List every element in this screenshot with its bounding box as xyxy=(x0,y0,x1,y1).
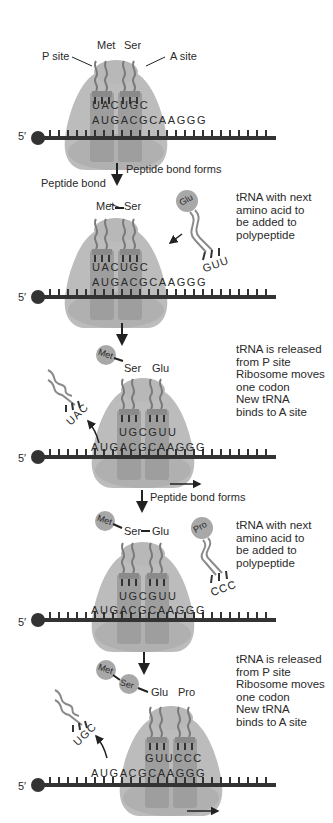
panel-4 xyxy=(31,490,276,652)
anticodons: GUUCCC xyxy=(145,752,203,764)
amino-acid-ser: Ser xyxy=(124,362,141,374)
amino-acid-pro: Pro xyxy=(178,686,195,698)
step-note: tRNA with next amino acid to be added to… xyxy=(236,191,311,241)
peptide-bond-label: Peptide bond xyxy=(41,177,106,189)
amino-acid-ser: Ser xyxy=(124,39,141,51)
mrna-sequence: AUGACGCAAGGG xyxy=(91,604,206,616)
mrna-sequence: AUGACGCAAGGG xyxy=(92,114,207,126)
step-note: tRNA is released from P site Ribosome mo… xyxy=(236,653,325,728)
step-label: Peptide bond forms xyxy=(150,491,245,503)
anticodons: UACUGC xyxy=(92,261,149,273)
p-site-label: P site xyxy=(42,50,69,62)
mrna-sequence: AUGACGCAAGGG xyxy=(92,276,207,288)
five-prime-label: 5′ xyxy=(18,130,26,142)
five-prime-label: 5′ xyxy=(18,780,26,792)
anticodons: UACUGC xyxy=(92,99,149,111)
step-note: tRNA with next amino acid to be added to… xyxy=(236,519,311,569)
amino-acid-met: Met xyxy=(96,200,114,212)
amino-acid-ser: Ser xyxy=(124,200,141,212)
five-prime-label: 5′ xyxy=(18,616,26,628)
mrna-sequence: AUGACGCAAGGG xyxy=(91,767,206,779)
amino-acid-glu: Glu xyxy=(152,362,169,374)
mrna-sequence: AUGACGCAAGGG xyxy=(91,441,206,453)
amino-acid-met: Met xyxy=(97,39,115,51)
amino-acid-ser: Ser xyxy=(124,525,141,537)
step-note: tRNA is released from P site Ribosome mo… xyxy=(236,343,325,418)
step-label: Peptide bond forms xyxy=(126,163,221,175)
anticodons: UGCGUU xyxy=(119,426,178,438)
anticodons: UGCGUU xyxy=(119,590,178,602)
amino-acid-glu: Glu xyxy=(151,686,168,698)
a-site-label: A site xyxy=(170,50,197,62)
amino-acid-glu: Glu xyxy=(152,525,169,537)
five-prime-label: 5′ xyxy=(18,291,26,303)
five-prime-label: 5′ xyxy=(18,452,26,464)
